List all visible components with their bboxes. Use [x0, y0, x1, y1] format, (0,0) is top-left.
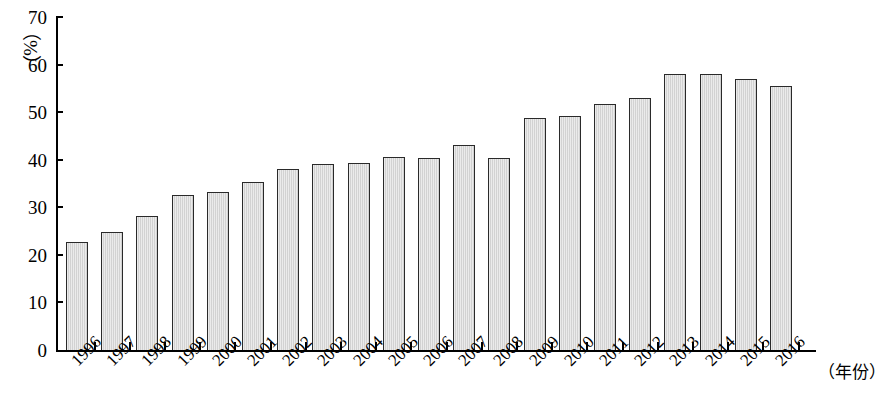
- bar: [594, 104, 616, 350]
- bar: [136, 216, 158, 350]
- bar-chart: （%） 010203040506070 19961997199819992000…: [0, 0, 875, 396]
- y-axis-tick-mark: [56, 16, 63, 18]
- plot-area: 010203040506070: [56, 17, 816, 352]
- bar: [488, 158, 510, 350]
- bar: [524, 118, 546, 350]
- x-axis-unit-label: （年份）: [818, 364, 875, 381]
- bar: [66, 242, 88, 350]
- bar: [101, 232, 123, 350]
- bar: [453, 145, 475, 350]
- y-axis-tick-label: 70: [28, 8, 47, 27]
- y-axis-tick-mark: [56, 254, 63, 256]
- y-axis-tick-label: 10: [28, 293, 47, 312]
- y-axis-tick-label: 60: [28, 55, 47, 74]
- bar: [312, 164, 334, 350]
- bar: [700, 74, 722, 350]
- bar: [629, 98, 651, 350]
- bar: [559, 116, 581, 350]
- bar: [207, 192, 229, 350]
- bar: [383, 157, 405, 350]
- y-axis-tick-label: 50: [28, 103, 47, 122]
- y-axis-tick-mark: [56, 64, 63, 66]
- bar: [664, 74, 686, 350]
- y-axis-tick-mark: [56, 206, 63, 208]
- y-axis-tick-label: 30: [28, 198, 47, 217]
- bar: [418, 158, 440, 350]
- y-axis-tick-label: 20: [28, 245, 47, 264]
- bar: [770, 86, 792, 350]
- y-axis-tick-mark: [56, 111, 63, 113]
- bar: [348, 163, 370, 350]
- bar: [735, 79, 757, 350]
- y-axis-tick-label: 0: [38, 341, 48, 360]
- bar: [242, 182, 264, 350]
- y-axis-tick-mark: [56, 301, 63, 303]
- bar: [277, 169, 299, 350]
- bar: [172, 195, 194, 350]
- y-axis-tick-label: 40: [28, 150, 47, 169]
- y-axis-tick-mark: [56, 159, 63, 161]
